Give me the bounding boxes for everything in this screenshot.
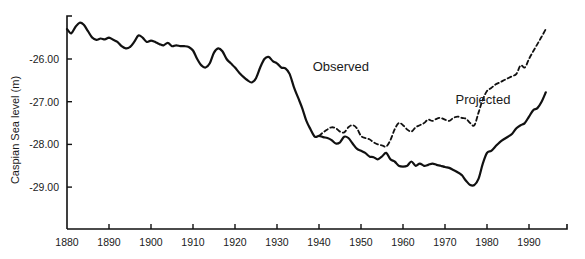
x-axis: 1880189019001910192019301940195019601970… bbox=[55, 224, 567, 248]
y-axis-title: Caspian Sea level (m) bbox=[9, 76, 21, 184]
series-labels: ObservedProjected bbox=[313, 59, 511, 107]
projected-label: Projected bbox=[456, 92, 511, 107]
x-axis-line bbox=[67, 224, 567, 229]
x-tick-label: 1950 bbox=[349, 236, 373, 248]
y-tick-label: -28.00 bbox=[29, 138, 59, 150]
x-tick-label: 1890 bbox=[97, 236, 121, 248]
y-tick-label: -27.00 bbox=[29, 96, 59, 108]
y-axis-line bbox=[67, 16, 72, 229]
x-tick-label: 1930 bbox=[265, 236, 289, 248]
y-axis: -26.00-27.00-28.00-29.00 bbox=[29, 16, 72, 229]
x-tick-label: 1900 bbox=[139, 236, 163, 248]
projected-series-line bbox=[319, 29, 546, 147]
observed-label: Observed bbox=[313, 59, 369, 74]
y-tick-label: -29.00 bbox=[29, 181, 59, 193]
y-tick-label: -26.00 bbox=[29, 53, 59, 65]
x-tick-label: 1990 bbox=[517, 236, 541, 248]
x-tick-label: 1980 bbox=[475, 236, 499, 248]
x-tick-label: 1940 bbox=[307, 236, 331, 248]
caspian-sea-level-chart: 1880189019001910192019301940195019601970… bbox=[0, 0, 585, 259]
x-tick-label: 1970 bbox=[433, 236, 457, 248]
x-tick-label: 1960 bbox=[391, 236, 415, 248]
x-tick-label: 1880 bbox=[55, 236, 79, 248]
x-tick-label: 1920 bbox=[223, 236, 247, 248]
x-tick-label: 1910 bbox=[181, 236, 205, 248]
